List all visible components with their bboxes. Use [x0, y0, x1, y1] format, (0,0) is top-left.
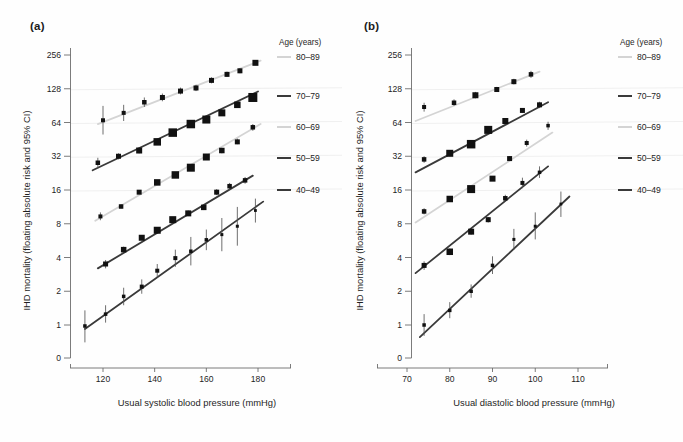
svg-text:256: 256	[47, 50, 62, 60]
svg-text:64: 64	[392, 118, 402, 128]
svg-text:60–69: 60–69	[296, 122, 320, 132]
svg-text:32: 32	[392, 151, 402, 161]
svg-text:80–89: 80–89	[637, 52, 661, 62]
svg-text:64: 64	[51, 118, 61, 128]
svg-text:160: 160	[199, 374, 214, 384]
svg-text:256: 256	[388, 50, 403, 60]
svg-text:110: 110	[571, 374, 585, 384]
svg-text:70: 70	[402, 374, 412, 384]
svg-text:90: 90	[488, 374, 498, 384]
svg-text:8: 8	[56, 219, 61, 229]
svg-text:40–49: 40–49	[637, 185, 661, 195]
panel-b-plot: 25612864321684210708090100110Age (years)…	[341, 0, 683, 442]
svg-text:32: 32	[51, 151, 61, 161]
svg-text:180: 180	[251, 374, 266, 384]
panel-b: (b) IHD mortality (floating absolute ris…	[341, 0, 683, 442]
svg-text:140: 140	[147, 374, 162, 384]
svg-text:80–89: 80–89	[296, 52, 320, 62]
svg-text:50–59: 50–59	[637, 153, 661, 163]
svg-text:Age (years): Age (years)	[620, 38, 663, 47]
svg-text:2: 2	[397, 286, 402, 296]
svg-text:16: 16	[51, 185, 61, 195]
svg-text:128: 128	[47, 84, 62, 94]
panel-a-plot: 25612864321684210120140160180Age (years)…	[0, 0, 342, 442]
svg-text:1: 1	[56, 320, 61, 330]
svg-text:40–49: 40–49	[296, 185, 320, 195]
svg-text:50–59: 50–59	[296, 153, 320, 163]
svg-text:2: 2	[56, 286, 61, 296]
svg-text:120: 120	[96, 374, 111, 384]
svg-text:0: 0	[56, 353, 61, 363]
svg-text:80: 80	[445, 374, 455, 384]
svg-text:128: 128	[388, 84, 403, 94]
svg-text:1: 1	[397, 320, 402, 330]
svg-text:100: 100	[528, 374, 543, 384]
svg-text:70–79: 70–79	[296, 91, 320, 101]
svg-text:16: 16	[392, 185, 402, 195]
svg-text:4: 4	[397, 253, 402, 263]
svg-text:70–79: 70–79	[637, 91, 661, 101]
svg-text:60–69: 60–69	[637, 122, 661, 132]
svg-text:8: 8	[397, 219, 402, 229]
svg-text:Age (years): Age (years)	[279, 38, 322, 47]
svg-text:0: 0	[397, 353, 402, 363]
panel-a: (a) IHD mortality (floating absolute ris…	[0, 0, 342, 442]
svg-text:4: 4	[56, 253, 61, 263]
figure-root: (a) IHD mortality (floating absolute ris…	[0, 0, 683, 442]
